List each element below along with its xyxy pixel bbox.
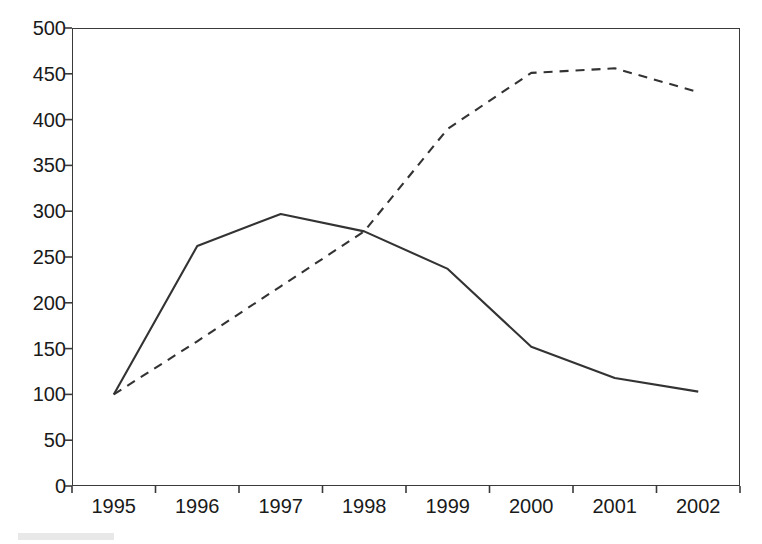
x-axis-tick-label: 1996 [175, 495, 220, 517]
x-axis-tick-marks [72, 486, 740, 493]
x-axis-tick-label: 2002 [676, 495, 721, 517]
x-axis-tick-label: 1999 [426, 495, 471, 517]
x-axis-tick-label: 2000 [509, 495, 554, 517]
x-axis-tick-label: 1998 [342, 495, 387, 517]
x-axis-tick-label: 1995 [92, 495, 137, 517]
chart-svg-layer [0, 0, 762, 544]
x-axis: 19951996199719981999200020012002 [72, 495, 740, 525]
series-line-solid-series [114, 214, 699, 394]
line-chart: 050100150200250300350400450500 199519961… [0, 0, 762, 544]
data-series-layer [114, 68, 699, 394]
x-axis-tick-label: 2001 [593, 495, 638, 517]
series-line-dashed-series [114, 68, 699, 394]
x-axis-tick-label: 1997 [259, 495, 304, 517]
caption-fragment [18, 533, 114, 540]
y-axis-tick-marks [65, 28, 72, 486]
